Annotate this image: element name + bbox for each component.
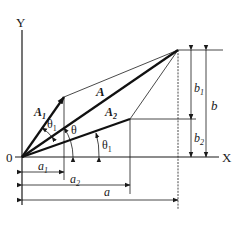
a2-label: a2	[70, 172, 80, 188]
a-label: a	[104, 185, 110, 199]
vector-a1	[22, 97, 64, 157]
x-axis-label: X	[222, 150, 232, 165]
theta-a1-label: θ1	[47, 117, 57, 133]
vector-a-label: A	[95, 84, 105, 99]
vector-a1-label: A1	[33, 105, 46, 121]
theta-label: θ	[71, 123, 77, 137]
vector-diagram: Y X 0 A1 A A2 θ1 θ θ1 a1 a2 a b1 b2 b	[0, 0, 247, 228]
a1-label: a1	[38, 159, 48, 175]
b-label: b	[211, 98, 218, 113]
b2-label: b2	[194, 131, 204, 147]
b1-label: b1	[194, 81, 204, 97]
parallelogram-right	[130, 50, 178, 119]
vector-a2-label: A2	[104, 105, 117, 121]
origin-label: 0	[6, 150, 13, 165]
vector-a	[22, 50, 178, 157]
theta1-label: θ1	[102, 138, 112, 154]
theta1-arc	[96, 133, 99, 157]
y-axis-label: Y	[16, 15, 26, 30]
